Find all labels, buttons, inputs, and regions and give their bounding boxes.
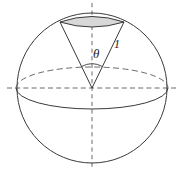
theta-label: θ bbox=[93, 46, 100, 61]
radius-label: 1 bbox=[114, 37, 120, 51]
spherical-cap-fill bbox=[60, 17, 124, 28]
cone-edge-left bbox=[60, 22, 92, 88]
sphere-cone-diagram: θ 1 bbox=[0, 0, 184, 173]
equator-back-half bbox=[16, 67, 168, 88]
figure-root: θ 1 bbox=[0, 0, 184, 173]
